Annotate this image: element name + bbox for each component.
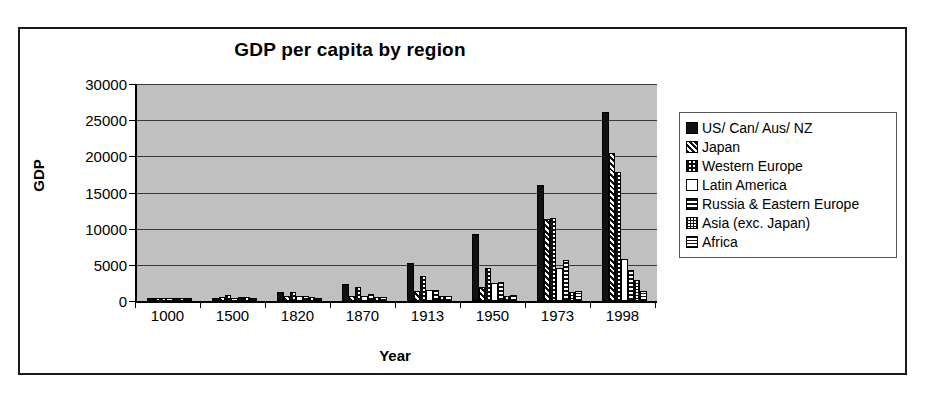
legend-swatch-icon bbox=[686, 141, 698, 153]
y-tick-label: 30000 bbox=[59, 77, 127, 92]
chart-legend: US/ Can/ Aus/ NZJapanWestern EuropeLatin… bbox=[679, 112, 897, 258]
legend-swatch-icon bbox=[686, 236, 698, 248]
x-tick-mark bbox=[135, 302, 136, 308]
bar bbox=[640, 291, 646, 301]
plot-area bbox=[135, 84, 657, 303]
x-tick-mark bbox=[265, 302, 266, 308]
x-tick-label: 1500 bbox=[200, 307, 265, 324]
legend-item[interactable]: Russia & Eastern Europe bbox=[686, 194, 890, 213]
y-tick-label: 5000 bbox=[59, 257, 127, 272]
x-tick-mark bbox=[590, 302, 591, 308]
bar bbox=[510, 295, 516, 301]
legend-item-label: Japan bbox=[702, 140, 740, 154]
legend-swatch-icon bbox=[686, 160, 698, 172]
y-tick-label: 25000 bbox=[59, 113, 127, 128]
legend-swatch-icon bbox=[686, 122, 698, 134]
x-tick-label: 1820 bbox=[265, 307, 330, 324]
bar bbox=[380, 297, 386, 301]
chart-page: GDP per capita by region GDP Year 300002… bbox=[0, 0, 928, 402]
legend-item[interactable]: Asia (exc. Japan) bbox=[686, 213, 890, 232]
y-tick-label: 15000 bbox=[59, 185, 127, 200]
legend-item[interactable]: Latin America bbox=[686, 175, 890, 194]
legend-swatch-icon bbox=[686, 198, 698, 210]
x-tick-label: 1973 bbox=[525, 307, 590, 324]
x-tick-mark bbox=[395, 302, 396, 308]
gridline bbox=[137, 265, 657, 266]
legend-item[interactable]: US/ Can/ Aus/ NZ bbox=[686, 118, 890, 137]
x-tick-label: 1913 bbox=[395, 307, 460, 324]
bar bbox=[250, 298, 256, 301]
x-tick-mark bbox=[655, 302, 656, 308]
legend-item-label: US/ Can/ Aus/ NZ bbox=[702, 121, 812, 135]
legend-item-label: Russia & Eastern Europe bbox=[702, 197, 859, 211]
legend-item[interactable]: Western Europe bbox=[686, 156, 890, 175]
chart-frame: GDP per capita by region GDP Year 300002… bbox=[18, 27, 907, 375]
x-tick-mark bbox=[525, 302, 526, 308]
x-tick-label: 1870 bbox=[330, 307, 395, 324]
y-tick-label: 0 bbox=[59, 294, 127, 309]
y-axis-title: GDP bbox=[30, 136, 47, 216]
legend-item-label: Asia (exc. Japan) bbox=[702, 216, 810, 230]
gridline bbox=[137, 229, 657, 230]
x-tick-mark bbox=[200, 302, 201, 308]
chart-title: GDP per capita by region bbox=[20, 39, 680, 61]
x-axis-title: Year bbox=[135, 347, 655, 364]
y-tick-label: 20000 bbox=[59, 149, 127, 164]
legend-item-label: Africa bbox=[702, 235, 738, 249]
x-tick-mark bbox=[330, 302, 331, 308]
bar bbox=[185, 298, 191, 301]
gridline bbox=[137, 120, 657, 121]
legend-item[interactable]: Africa bbox=[686, 232, 890, 251]
legend-swatch-icon bbox=[686, 217, 698, 229]
y-tick-label: 10000 bbox=[59, 221, 127, 236]
legend-item-label: Western Europe bbox=[702, 159, 803, 173]
bar bbox=[575, 291, 581, 301]
gridline bbox=[137, 84, 657, 85]
x-tick-label: 1950 bbox=[460, 307, 525, 324]
bar bbox=[315, 298, 321, 301]
legend-item-label: Latin America bbox=[702, 178, 787, 192]
gridline bbox=[137, 156, 657, 157]
bar bbox=[445, 296, 451, 301]
x-tick-mark bbox=[460, 302, 461, 308]
x-tick-label: 1998 bbox=[590, 307, 655, 324]
gridline bbox=[137, 193, 657, 194]
legend-swatch-icon bbox=[686, 179, 698, 191]
legend-item[interactable]: Japan bbox=[686, 137, 890, 156]
x-tick-label: 1000 bbox=[135, 307, 200, 324]
